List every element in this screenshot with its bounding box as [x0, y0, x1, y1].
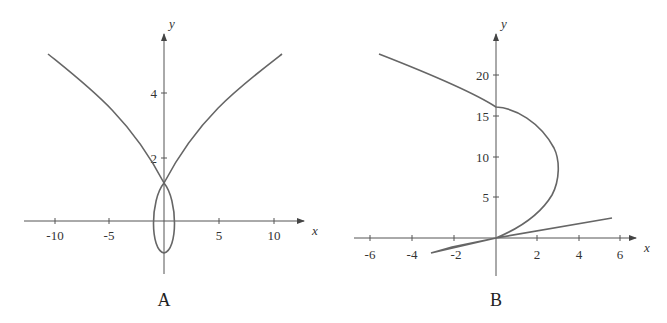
y-tick-label: 5 — [483, 190, 490, 205]
x-tick-label: 5 — [216, 228, 223, 243]
x-tick-label: -6 — [365, 247, 376, 262]
plot-a: -10 -5 5 10 2 4 x y A — [24, 16, 318, 310]
y-axis-label: y — [167, 16, 175, 31]
caption-a: A — [158, 290, 171, 310]
x-tick-label: 6 — [617, 247, 624, 262]
x-axis-label: x — [311, 223, 318, 238]
curve-a — [48, 54, 282, 253]
x-tick-label: 10 — [268, 228, 281, 243]
y-axis-label: y — [499, 16, 507, 31]
y-tick-label: 15 — [476, 109, 489, 124]
x-tick-label: -10 — [46, 228, 63, 243]
x-tick-label: 2 — [534, 247, 541, 262]
x-axis-label: x — [643, 240, 650, 255]
caption-b: B — [490, 290, 502, 310]
plot-b: -6 -4 -2 2 4 6 5 10 15 20 x y B — [354, 16, 650, 310]
x-tick-label: -5 — [104, 228, 115, 243]
figure: -10 -5 5 10 2 4 x y A -6 -4 -2 2 4 — [0, 0, 667, 323]
y-tick-label: 10 — [476, 150, 489, 165]
y-tick-label: 20 — [476, 68, 489, 83]
x-ticks-b — [370, 75, 620, 241]
x-tick-label: 4 — [576, 247, 583, 262]
y-tick-label: 4 — [151, 86, 158, 101]
x-tick-label: -4 — [407, 247, 418, 262]
x-tick-label: -2 — [451, 247, 462, 262]
